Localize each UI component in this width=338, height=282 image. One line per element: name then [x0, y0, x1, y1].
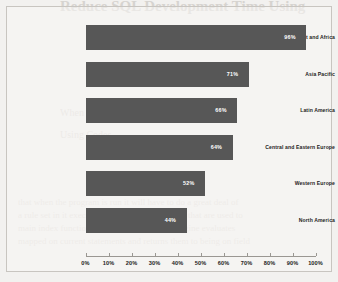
axis-tick	[132, 253, 133, 256]
bar	[86, 62, 249, 87]
bar	[86, 25, 307, 50]
bar-row: Latin America66%	[0, 95, 338, 125]
plot-area: Middle East and Africa96%Asia Pacific71%…	[0, 0, 338, 282]
axis-tick	[316, 253, 317, 256]
bar-row: Western Europe52%	[0, 168, 338, 198]
category-label: Asia Pacific	[253, 59, 338, 89]
bar-value-label: 96%	[284, 25, 295, 50]
chart-figure: Reduce SQL Development Time Using When U…	[0, 0, 338, 282]
bar-row: North America44%	[0, 205, 338, 235]
axis-tick	[293, 253, 294, 256]
bar-row: Middle East and Africa96%	[0, 22, 338, 52]
bar-row: Asia Pacific71%	[0, 59, 338, 89]
bar-value-label: 44%	[165, 208, 176, 233]
axis-tick	[178, 253, 179, 256]
axis-tick	[109, 253, 110, 256]
category-label: Western Europe	[253, 168, 338, 198]
axis-tick	[201, 253, 202, 256]
category-label: Central and Eastern Europe	[253, 132, 338, 162]
axis-tick	[224, 253, 225, 256]
axis-tick	[155, 253, 156, 256]
axis-tick	[247, 253, 248, 256]
category-label: North America	[253, 205, 338, 235]
bar-value-label: 71%	[227, 62, 238, 87]
bar-value-label: 66%	[215, 98, 226, 123]
bar-value-label: 52%	[183, 171, 194, 196]
axis-tick	[270, 253, 271, 256]
axis-line	[86, 256, 316, 257]
bar-value-label: 64%	[211, 135, 222, 160]
bar-row: Central and Eastern Europe64%	[0, 132, 338, 162]
category-label: Latin America	[253, 95, 338, 125]
axis-tick	[86, 253, 87, 256]
axis-tick-label: 100%	[303, 260, 329, 266]
